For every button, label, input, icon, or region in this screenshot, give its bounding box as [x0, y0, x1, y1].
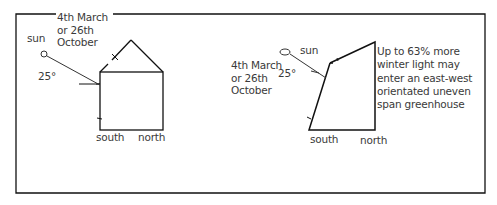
date-line-1: 4th March: [57, 11, 108, 24]
south-label-left: south: [96, 131, 124, 144]
winter-light-note: Up to 63% more winter light may enter an…: [377, 45, 472, 111]
note-line-3: enter an east-west: [377, 72, 472, 85]
date-line-3: October: [231, 84, 282, 97]
date-line-2: or 26th: [57, 24, 108, 37]
north-label-left: north: [138, 131, 165, 144]
sun-icon-right: [280, 49, 290, 55]
date-line-2: or 26th: [231, 72, 282, 85]
date-label-right: 4th March or 26th October: [231, 59, 282, 97]
north-label-right: north: [360, 134, 387, 147]
note-line-1: Up to 63% more: [377, 45, 472, 58]
note-line-5: span greenhouse: [377, 98, 472, 111]
sun-label-right: sun: [300, 44, 318, 57]
note-line-4: orientated uneven: [377, 85, 472, 98]
angle-label-left: 25°: [38, 70, 56, 83]
date-line-3: October: [57, 36, 108, 49]
angle-label-right: 25°: [278, 67, 296, 80]
date-line-1: 4th March: [231, 59, 282, 72]
note-line-2: winter light may: [377, 58, 472, 71]
sun-label-left: sun: [27, 32, 45, 45]
date-label-left: 4th March or 26th October: [57, 11, 108, 49]
sun-icon-left: [41, 51, 47, 57]
even-span-greenhouse: [79, 40, 163, 130]
south-label-right: south: [310, 133, 338, 146]
